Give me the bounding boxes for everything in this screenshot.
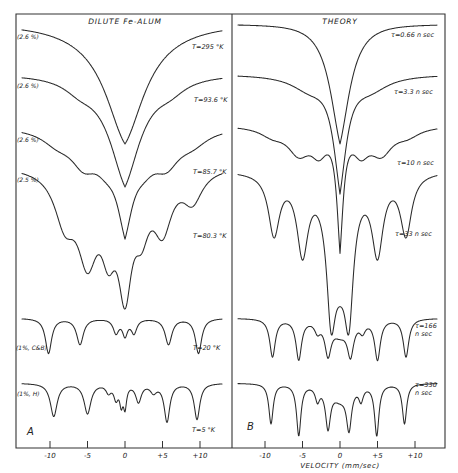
tick-label: 0 bbox=[123, 452, 128, 460]
curve-a4-sample-label: (2.5 %) bbox=[17, 176, 39, 183]
curve-b5-tau-label: τ=166 bbox=[415, 322, 437, 330]
panel-b: THEORY τ=0.66 n sec τ=3.3 n sec τ=10 n s… bbox=[238, 17, 437, 470]
spectrum-curve bbox=[22, 78, 222, 187]
spectrum-curve bbox=[22, 174, 222, 310]
plot-frame bbox=[16, 14, 445, 448]
tick-label: +5 bbox=[157, 452, 168, 460]
spectrum-curve bbox=[238, 319, 437, 361]
panel-b-title: THEORY bbox=[322, 17, 358, 26]
tick-label: -5 bbox=[299, 452, 307, 460]
panel-a-x-axis: -10 -5 0 +5 +10 bbox=[44, 441, 208, 460]
panel-a-title: DILUTE Fe-ALUM bbox=[88, 17, 161, 26]
spectrum-curve bbox=[238, 384, 437, 436]
curve-a5-temp-label: T=20 °K bbox=[193, 344, 221, 352]
curve-b6-unit-label: n sec bbox=[415, 389, 433, 397]
curve-b6-tau-label: τ=330 bbox=[415, 381, 437, 389]
x-axis-title: VELOCITY (mm/sec) bbox=[300, 462, 380, 470]
curve-b5-unit-label: n sec bbox=[415, 330, 433, 338]
tick-label: +10 bbox=[408, 452, 423, 460]
panel-a: DILUTE Fe-ALUM (2.6 %) T=295 °K (2.6 %) … bbox=[16, 17, 228, 460]
curve-a3-sample-label: (2.6 %) bbox=[17, 136, 39, 143]
tick-label: -10 bbox=[44, 452, 56, 460]
curve-a6-temp-label: T=5 °K bbox=[192, 426, 216, 434]
tick-label: +5 bbox=[372, 452, 383, 460]
curve-a2-temp-label: T=93.6 °K bbox=[194, 96, 228, 104]
curve-a1-temp-label: T=295 °K bbox=[192, 43, 224, 51]
spectrum-curve bbox=[22, 133, 222, 240]
curve-a4-temp-label: T=80.3 °K bbox=[193, 232, 227, 240]
curve-a5-sample-label: (1%, C&B) bbox=[16, 344, 47, 351]
panel-b-letter: B bbox=[247, 421, 254, 432]
curve-a1-sample-label: (2.6 %) bbox=[17, 33, 39, 40]
tick-label: -5 bbox=[84, 452, 92, 460]
tick-label: +10 bbox=[193, 452, 208, 460]
curve-b3-tau-label: τ=10 n sec bbox=[397, 159, 434, 167]
mossbauer-figure: DILUTE Fe-ALUM (2.6 %) T=295 °K (2.6 %) … bbox=[0, 0, 458, 473]
spectrum-curve bbox=[22, 384, 222, 423]
panel-a-letter: A bbox=[26, 426, 34, 437]
panel-a-curves bbox=[22, 30, 222, 423]
curve-b4-tau-label: τ=33 n sec bbox=[395, 230, 432, 238]
tick-label: 0 bbox=[338, 452, 343, 460]
curve-a2-sample-label: (2.6 %) bbox=[17, 82, 39, 89]
curve-b2-tau-label: τ=3.3 n sec bbox=[394, 88, 433, 96]
curve-a3-temp-label: T=85.7 °K bbox=[193, 168, 227, 176]
tick-label: -10 bbox=[259, 452, 271, 460]
panel-b-x-axis: -10 -5 0 +5 +10 VELOCITY (mm/sec) bbox=[259, 441, 423, 470]
spectrum-curve bbox=[238, 25, 437, 144]
spectrum-curve bbox=[22, 319, 222, 354]
spectrum-curve bbox=[238, 175, 437, 335]
curve-b1-tau-label: τ=0.66 n sec bbox=[391, 31, 434, 39]
curve-a6-sample-label: (1%, H) bbox=[17, 390, 40, 397]
